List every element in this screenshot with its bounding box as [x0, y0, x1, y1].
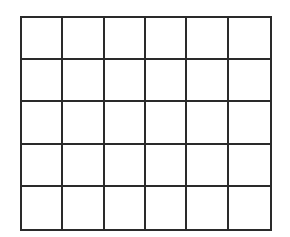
grid-cell-r2-c5	[187, 60, 228, 102]
grid-cell-r5-c6	[229, 187, 270, 229]
grid-cell-r2-c4	[146, 60, 187, 102]
grid-cell-r2-c1	[22, 60, 63, 102]
grid-cell-r5-c3	[105, 187, 146, 229]
grid-cell-r4-c2	[63, 145, 104, 187]
grid-cell-r5-c2	[63, 187, 104, 229]
grid-cell-r5-c4	[146, 187, 187, 229]
grid-cell-r4-c5	[187, 145, 228, 187]
grid-cell-r1-c4	[146, 18, 187, 60]
grid-cell-r5-c1	[22, 187, 63, 229]
grid-cell-r1-c5	[187, 18, 228, 60]
grid-cell-r1-c2	[63, 18, 104, 60]
grid-cell-r1-c3	[105, 18, 146, 60]
grid-cell-r2-c6	[229, 60, 270, 102]
grid-cell-r3-c1	[22, 102, 63, 144]
grid-cell-r3-c6	[229, 102, 270, 144]
grid-cell-r3-c4	[146, 102, 187, 144]
grid-cell-r3-c2	[63, 102, 104, 144]
grid-cell-r3-c3	[105, 102, 146, 144]
grid-cell-r4-c6	[229, 145, 270, 187]
grid-cell-r4-c1	[22, 145, 63, 187]
grid-cell-r5-c5	[187, 187, 228, 229]
grid-cell-r2-c3	[105, 60, 146, 102]
grid-cell-r1-c6	[229, 18, 270, 60]
grid-cell-r2-c2	[63, 60, 104, 102]
empty-grid	[20, 16, 272, 231]
grid-cell-r4-c4	[146, 145, 187, 187]
grid-cell-r3-c5	[187, 102, 228, 144]
grid-cell-r4-c3	[105, 145, 146, 187]
grid-cell-r1-c1	[22, 18, 63, 60]
